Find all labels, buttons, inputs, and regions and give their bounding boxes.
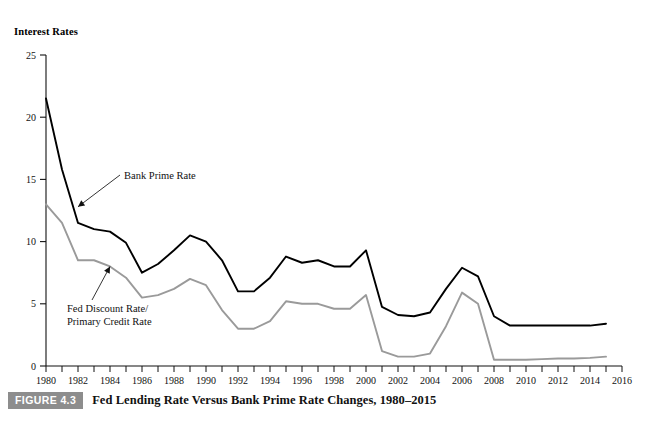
y-tick-label: 25 bbox=[26, 50, 36, 61]
chart-plot-area: 0510152025 19801982198419861988199019921… bbox=[0, 0, 645, 421]
x-tick-label: 2014 bbox=[580, 375, 600, 386]
y-tick-label: 20 bbox=[26, 112, 36, 123]
x-tick-label: 2012 bbox=[548, 375, 568, 386]
x-tick-label: 1998 bbox=[324, 375, 344, 386]
series-line-fed-discount-rate-primary-credit-rate bbox=[46, 204, 606, 360]
x-tick-label: 1992 bbox=[228, 375, 248, 386]
y-tick-label: 5 bbox=[31, 298, 36, 309]
annotation-fed-discount-rate-line2: Primary Credit Rate bbox=[67, 316, 152, 327]
series-line-bank-prime-rate bbox=[46, 99, 606, 326]
figure-container: Interest Rates 0510152025 19801982198419… bbox=[0, 0, 645, 421]
annotation-bank-prime-rate: Bank Prime Rate bbox=[124, 170, 196, 181]
x-tick-label: 1980 bbox=[36, 375, 56, 386]
x-tick-label: 1994 bbox=[260, 375, 280, 386]
annotation-arrowhead bbox=[78, 200, 85, 206]
x-tick-label: 1982 bbox=[68, 375, 88, 386]
figure-caption-text: Fed Lending Rate Versus Bank Prime Rate … bbox=[92, 393, 436, 408]
x-tick-label: 2010 bbox=[516, 375, 536, 386]
annotation-fed-discount-rate-line1: Fed Discount Rate/ bbox=[67, 303, 148, 314]
x-tick-label: 2000 bbox=[356, 375, 376, 386]
x-tick-label: 2016 bbox=[612, 375, 632, 386]
annotation-leader-line bbox=[78, 175, 120, 207]
y-tick-label: 15 bbox=[26, 174, 36, 185]
y-tick-label: 10 bbox=[26, 236, 36, 247]
x-tick-label: 2002 bbox=[388, 375, 408, 386]
x-tick-label: 2004 bbox=[420, 375, 440, 386]
x-tick-label: 1986 bbox=[132, 375, 152, 386]
figure-number-badge: FIGURE 4.3 bbox=[8, 392, 83, 409]
x-tick-label: 1990 bbox=[196, 375, 216, 386]
y-tick-label: 0 bbox=[31, 361, 36, 372]
x-axis-ticks: 1980198219841986198819901992199419961998… bbox=[36, 366, 632, 386]
x-tick-label: 1988 bbox=[164, 375, 184, 386]
x-tick-label: 1984 bbox=[100, 375, 120, 386]
y-axis-ticks: 0510152025 bbox=[26, 50, 46, 372]
x-tick-label: 1996 bbox=[292, 375, 312, 386]
x-tick-label: 2008 bbox=[484, 375, 504, 386]
x-tick-label: 2006 bbox=[452, 375, 472, 386]
figure-caption: FIGURE 4.3 Fed Lending Rate Versus Bank … bbox=[8, 392, 436, 409]
